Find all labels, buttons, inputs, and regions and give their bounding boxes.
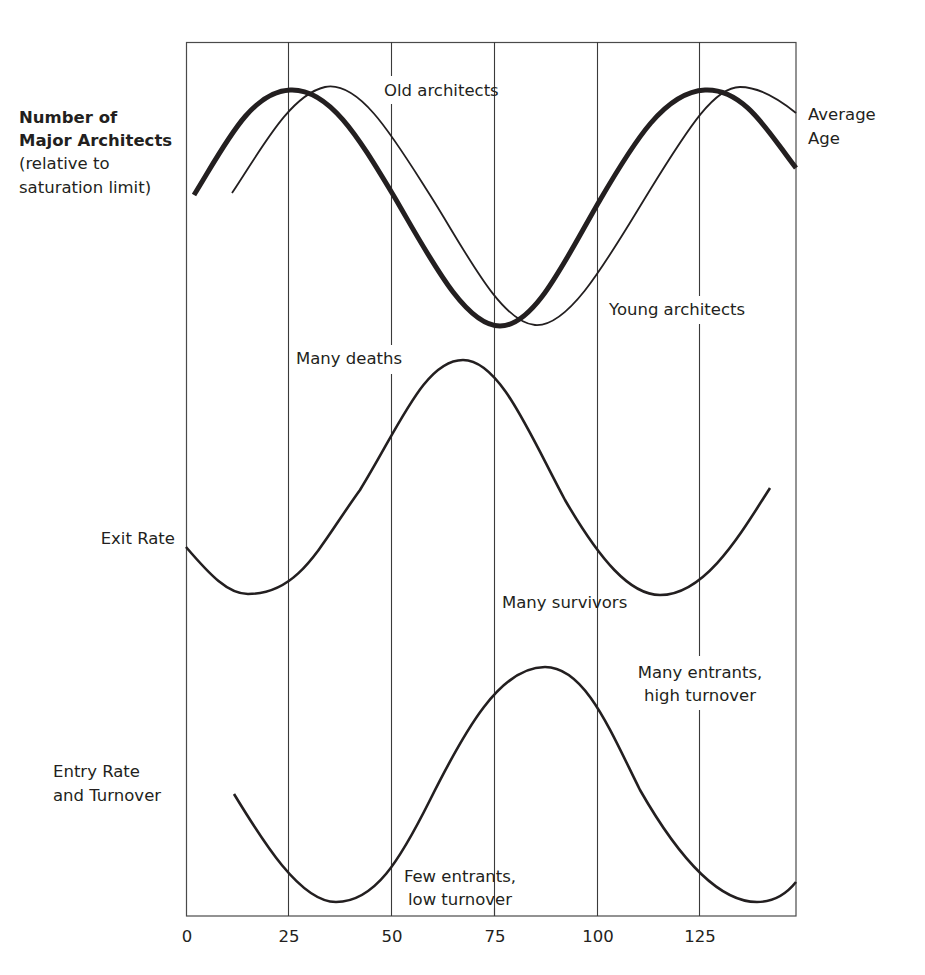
exit-rate-curve <box>186 360 770 595</box>
architects-cycle-diagram: Number of Major Architects (relative to … <box>0 0 925 975</box>
x-tick-50: 50 <box>382 927 403 947</box>
x-tick-0: 0 <box>182 927 193 947</box>
many-survivors-annotation: Many survivors <box>502 592 627 613</box>
few-entrants-annotation-line2: low turnover <box>360 889 560 910</box>
average-age-label-line2: Age <box>808 128 840 149</box>
many-entrants-annotation-line1: Many entrants, <box>600 662 800 683</box>
entry-rate-label-line2: and Turnover <box>53 785 161 806</box>
x-tick-125: 125 <box>684 927 716 947</box>
many-deaths-annotation: Many deaths <box>296 348 402 369</box>
average-age-curve <box>232 86 796 325</box>
few-entrants-annotation-line1: Few entrants, <box>360 866 560 887</box>
y-axis-label-line3: (relative to <box>19 153 109 174</box>
young-architects-annotation: Young architects <box>609 299 745 320</box>
x-tick-100: 100 <box>582 927 614 947</box>
old-architects-annotation: Old architects <box>384 80 499 101</box>
entry-rate-label-line1: Entry Rate <box>53 761 140 782</box>
exit-rate-label: Exit Rate <box>40 528 175 549</box>
y-axis-label-line1: Number of <box>19 107 117 128</box>
x-tick-75: 75 <box>485 927 506 947</box>
y-axis-label-line2: Major Architects <box>19 130 172 151</box>
average-age-label-line1: Average <box>808 104 876 125</box>
many-entrants-annotation-line2: high turnover <box>600 685 800 706</box>
plot-frame <box>187 43 797 917</box>
x-tick-25: 25 <box>279 927 300 947</box>
y-axis-label-line4: saturation limit) <box>19 177 151 198</box>
